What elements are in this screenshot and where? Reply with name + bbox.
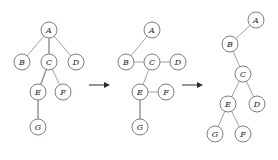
node-label: D [72, 58, 80, 67]
tree-node-e: E [220, 96, 236, 112]
tree-node-g: G [207, 126, 223, 142]
tree-node-e: E [30, 84, 46, 100]
tree-edge-c-f [52, 69, 59, 85]
node-label: E [34, 88, 41, 97]
edge-layer [131, 36, 170, 119]
node-label: F [239, 130, 246, 139]
diagram-content: ABCDEFGABCDEFGABCEDGF [14, 12, 265, 142]
tree-node-a: A [41, 22, 57, 38]
tree-edge-b-c [233, 51, 240, 66]
node-label: F [59, 88, 66, 97]
tree-node-g: G [30, 119, 46, 135]
node-label: C [149, 58, 155, 67]
transition-arrow-2 [182, 82, 203, 88]
tree-edge-c-d [246, 81, 253, 97]
tree-node-f: F [158, 84, 174, 100]
tree-node-b: B [118, 54, 134, 70]
node-label: B [226, 40, 233, 49]
transition-arrow-1 [89, 82, 110, 88]
general-tree: ABCDEFG [14, 22, 84, 135]
tree-node-g: G [132, 119, 148, 135]
tree-transformation-figure: ABCDEFGABCDEFGABCEDGF [0, 0, 278, 160]
tree-edge-a-b [27, 36, 44, 56]
node-label: D [253, 100, 261, 109]
tree-edge-c-e [143, 69, 149, 84]
tree-edge-e-f [232, 111, 240, 127]
tree-edge-a-b [236, 25, 250, 38]
node-label: A [45, 26, 52, 35]
node-label: E [224, 100, 231, 109]
tree-node-b: B [222, 36, 238, 52]
tree-node-c: C [235, 66, 251, 82]
arrow-head-icon [104, 82, 110, 88]
tree-node-b: B [14, 54, 30, 70]
node-label: B [122, 58, 129, 67]
tree-node-c: C [41, 54, 57, 70]
tree-node-c: C [144, 54, 160, 70]
node-label: G [137, 123, 144, 132]
tree-edge-a-b [131, 36, 147, 56]
left-child-right-sibling-links: ABCDEFG [118, 22, 186, 135]
arrow-head-icon [197, 82, 203, 88]
tree-node-f: F [235, 126, 251, 142]
diagram-canvas: ABCDEFGABCDEFGABCEDGF [0, 0, 278, 160]
edge-layer [27, 36, 71, 119]
node-label: E [136, 88, 143, 97]
binary-tree-result: ABCEDGF [207, 12, 265, 142]
node-label: D [174, 58, 182, 67]
node-label: B [18, 58, 25, 67]
node-label: G [212, 130, 219, 139]
node-label: A [148, 26, 155, 35]
tree-node-a: A [248, 12, 264, 28]
node-label: G [35, 123, 42, 132]
tree-node-d: D [170, 54, 186, 70]
tree-node-a: A [144, 22, 160, 38]
tree-node-d: D [249, 96, 265, 112]
tree-edge-c-e [232, 81, 240, 97]
tree-node-d: D [68, 54, 84, 70]
tree-node-e: E [132, 84, 148, 100]
node-label: C [240, 70, 246, 79]
node-label: A [252, 16, 259, 25]
tree-edge-c-e [41, 70, 47, 85]
tree-edge-a-d [54, 36, 71, 56]
tree-edge-e-g [218, 111, 225, 126]
node-label: F [162, 88, 169, 97]
node-label: C [46, 58, 52, 67]
tree-node-f: F [55, 84, 71, 100]
